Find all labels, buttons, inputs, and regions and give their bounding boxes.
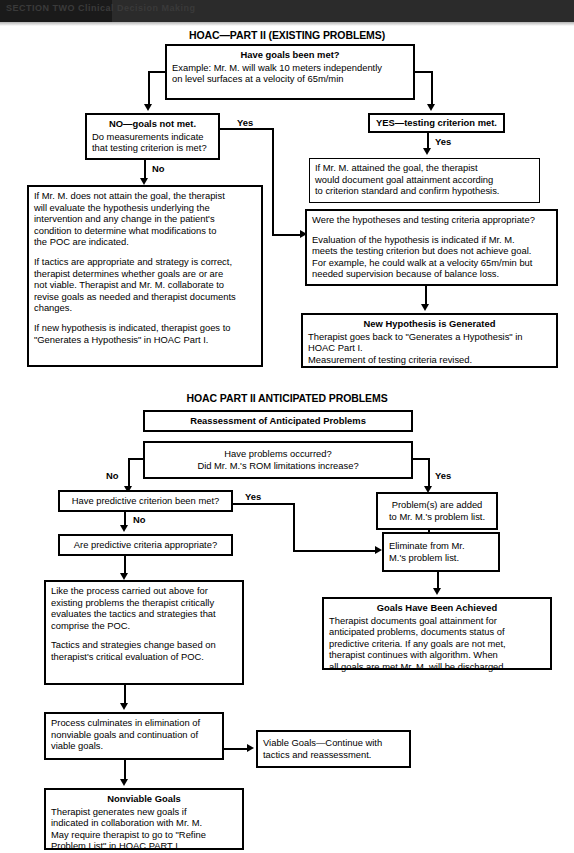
hypo-gap: [312, 226, 551, 234]
notattain-p1l5: the POC are indicated.: [34, 236, 256, 248]
hypo-line2: meets the testing criterion but does not…: [312, 245, 551, 257]
conn-hypo-down-v: [425, 286, 427, 306]
conn-nobox-right-v: [272, 128, 274, 235]
hypo-question: Were the hypotheses and testing criteria…: [312, 214, 551, 226]
likeprocess-p1l1: Like the process carried out above for: [51, 585, 237, 597]
box-attained-goal: If Mr. M. attained the goal, the therapi…: [309, 158, 540, 203]
label-no-under-no-box: No: [152, 163, 165, 174]
likeprocess-p1l3: evaluates the tactics and strategies tha…: [51, 608, 237, 620]
flowchart-page: SECTION TWO Clinical Decision Making HOA…: [0, 0, 574, 853]
notattain-p2l2: therapist determines whether goals are o…: [34, 268, 256, 280]
box-have-goals-been-met: Have goals been met? Example: Mr. M. wil…: [165, 44, 415, 100]
conn-problems-left-v: [128, 458, 130, 488]
hypo-line1: Evaluation of the hypothesis is indicate…: [312, 234, 551, 246]
attained-line3: to criterion standard and confirm hypoth…: [315, 185, 534, 197]
nonviable-l2: indicated in collaboration with Mr. M.: [51, 817, 237, 829]
eliminate-l1: Eliminate from Mr.: [389, 540, 493, 552]
notattain-p3l2: "Generates a Hypothesis" in HOAC Part I.: [34, 334, 256, 346]
conn-culminates-right-h: [224, 748, 249, 750]
box-like-process: Like the process carried out above for e…: [44, 580, 244, 685]
box-goals-have-been-achieved: Goals Have Been Achieved Therapist docum…: [322, 597, 552, 670]
notattain-p2l1: If tactics are appropriate and strategy …: [34, 256, 256, 268]
notattain-p2l5: changes.: [34, 302, 256, 314]
attained-line2: would document goal attainment according: [315, 174, 534, 186]
newhypo-heading: New Hypothesis is Generated: [308, 318, 551, 330]
notattain-p1l1: If Mr. M. does not attain the goal, the …: [34, 190, 256, 202]
nonviable-heading: Nonviable Goals: [51, 793, 237, 805]
likeprocess-gap: [51, 631, 237, 639]
box-predictive-criteria-appropriate: Are predictive criteria appropriate?: [58, 534, 233, 556]
arrow-to-new-hypothesis: [421, 304, 429, 311]
part1-title: HOAC—PART II (EXISTING PROBLEMS): [0, 29, 574, 41]
conn-problems-left-h: [128, 458, 144, 460]
arrow-to-no-goals: [144, 104, 152, 111]
conn-culminates-down-v: [124, 760, 126, 781]
likeprocess-p2l1: Tactics and strategies change based on: [51, 639, 237, 651]
culminates-l1: Process culminates in elimination of: [51, 717, 217, 729]
nonviable-l4: Problem List" in HOAC PART I.: [51, 840, 237, 852]
newhypo-line3: Measurement of testing criteria revised.: [308, 354, 551, 366]
box-reassessment: Reassessment of Anticipated Problems: [143, 410, 413, 432]
predictive-appropriate-q: Are predictive criteria appropriate?: [65, 539, 226, 551]
box-new-hypothesis: New Hypothesis is Generated Therapist go…: [301, 313, 558, 368]
goals-achieved-l2: anticipated problems, documents status o…: [329, 626, 545, 638]
hypo-line4: needed supervision because of balance lo…: [312, 268, 551, 280]
masthead-text: SECTION TWO Clinical Decision Making: [6, 3, 196, 13]
arrow-to-not-attain: [140, 178, 148, 185]
arrow-to-culminates: [120, 703, 128, 710]
label-yes-under-yes-box: Yes: [435, 136, 451, 147]
box-process-culminates: Process culminates in elimination of non…: [44, 712, 224, 760]
masthead-shadow: [0, 22, 574, 26]
arrow-to-like-process: [120, 573, 128, 580]
goals-achieved-l4: therapist continues with algorithm. When: [329, 649, 545, 661]
label-yes-no-box: Yes: [237, 117, 253, 128]
label-yes-predictive: Yes: [245, 491, 261, 502]
problems-added-l2: to Mr. M.'s problem list.: [383, 511, 491, 523]
conn-goals-left-h: [148, 71, 166, 73]
arrow-to-attained: [423, 148, 431, 155]
label-no-left: No: [106, 470, 119, 481]
problems-added-l1: Problem(s) are added: [383, 499, 491, 511]
attained-line1: If Mr. M. attained the goal, the therapi…: [315, 162, 534, 174]
reassessment-heading: Reassessment of Anticipated Problems: [150, 415, 406, 427]
box-predictive-criterion-met: Have predictive criterion been met?: [58, 490, 233, 512]
have-goals-line2: on level surfaces at a velocity of 65m/m…: [172, 73, 408, 85]
likeprocess-p1l2: existing problems the therapist critical…: [51, 597, 237, 609]
arrow-to-predictive-appropriate: [120, 525, 128, 532]
arrow-to-yes-testing: [427, 104, 435, 111]
no-goals-heading: NO—goals not met.: [92, 118, 213, 130]
predictive-met-q: Have predictive criterion been met?: [65, 495, 226, 507]
viable-goals-l2: tactics and reassessment.: [263, 749, 404, 761]
box-problems-added: Problem(s) are added to Mr. M.'s problem…: [376, 492, 498, 530]
notattain-p1l3: intervention and any change in the patie…: [34, 213, 256, 225]
box-problems-occurred: Have problems occurred? Did Mr. M.'s ROM…: [143, 441, 413, 479]
label-no-predictive: No: [133, 514, 146, 525]
goals-achieved-l1: Therapist documents goal attainment for: [329, 615, 545, 627]
arrow-to-goals-achieved: [433, 588, 441, 595]
goals-achieved-heading: Goals Have Been Achieved: [329, 602, 545, 614]
box-not-attain-goal: If Mr. M. does not attain the goal, the …: [27, 185, 263, 367]
nonviable-l3: May require therapist to go to "Refine: [51, 829, 237, 841]
newhypo-line1: Therapist goes back to "Generates a Hypo…: [308, 331, 551, 343]
nonviable-l1: Therapist generates new goals if: [51, 806, 237, 818]
problems-line1: Have problems occurred?: [150, 448, 406, 460]
goals-achieved-l3: predictive criteria. If any goals are no…: [329, 638, 545, 650]
viable-goals-l1: Viable Goals—Continue with: [263, 737, 404, 749]
notattain-p2l4: revise goals as needed and therapist doc…: [34, 291, 256, 303]
page-masthead: SECTION TWO Clinical Decision Making: [0, 0, 574, 22]
have-goals-line1: Example: Mr. M. will walk 10 meters inde…: [172, 62, 408, 74]
notattain-p3l1: If new hypothesis is indicated, therapis…: [34, 322, 256, 334]
likeprocess-p1l4: comprise the POC.: [51, 620, 237, 632]
conn-predictive-right-v: [293, 503, 295, 551]
notattain-p1l2: will evaluate the hypothesis underlying …: [34, 202, 256, 214]
likeprocess-p2l2: therapist's critical evaluation of POC.: [51, 651, 237, 663]
yes-testing-heading: YES—testing criterion met.: [375, 117, 498, 129]
arrow-to-viable-goals: [247, 744, 254, 752]
box-viable-goals: Viable Goals—Continue with tactics and r…: [256, 730, 411, 768]
arrow-to-eliminate: [375, 546, 382, 554]
part2-title: HOAC PART II ANTICIPATED PROBLEMS: [0, 392, 574, 404]
conn-likeprocess-down-v: [124, 685, 126, 705]
conn-predictive-right-h: [232, 503, 295, 505]
label-yes-right: Yes: [435, 470, 451, 481]
conn-predictive-to-eliminate-h: [293, 550, 377, 552]
